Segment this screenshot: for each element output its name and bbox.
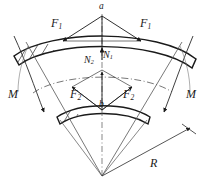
label-force-f2-right: F2	[123, 88, 134, 101]
radial-line-inner-left	[60, 120, 102, 176]
label-force-f1-left-subscript: 1	[59, 22, 63, 31]
label-normal-n2: N2	[84, 55, 94, 66]
label-force-f2-left: F2	[70, 88, 81, 101]
label-normal-n1-subscript: 1	[110, 53, 113, 60]
label-normal-n2-symbol: N	[84, 54, 91, 65]
label-force-f2-right-symbol: F	[123, 87, 130, 101]
label-normal-n1-symbol: N	[103, 49, 110, 60]
label-force-f1-right: F1	[140, 17, 151, 30]
label-force-f2-left-subscript: 2	[78, 93, 82, 102]
label-normal-n2-subscript: 2	[91, 58, 94, 65]
label-force-f2-right-subscript: 2	[131, 93, 135, 102]
label-moment-left: M	[8, 88, 18, 100]
label-radius-r: R	[150, 157, 157, 169]
label-normal-n1: N1	[103, 50, 113, 61]
label-point-b: b	[99, 100, 104, 110]
label-force-f1-left-symbol: F	[51, 16, 58, 30]
radius-dimension	[102, 124, 196, 176]
radius-line	[102, 128, 190, 176]
label-force-f1-right-symbol: F	[140, 16, 147, 30]
label-point-a: a	[99, 2, 104, 12]
label-force-f1-right-subscript: 1	[148, 22, 152, 31]
diagram-canvas	[0, 0, 208, 184]
label-force-f2-left-symbol: F	[70, 87, 77, 101]
radius-end-tick	[182, 124, 196, 134]
radial-line-inner-right	[102, 120, 147, 176]
label-moment-right: M	[186, 88, 196, 100]
label-force-f1-left: F1	[51, 17, 62, 30]
curved-beam-diagram: a F1 F1 N1 N2 F2 F2 b M M R	[0, 0, 208, 184]
lower-diamond-edge-upper-left	[72, 70, 102, 87]
